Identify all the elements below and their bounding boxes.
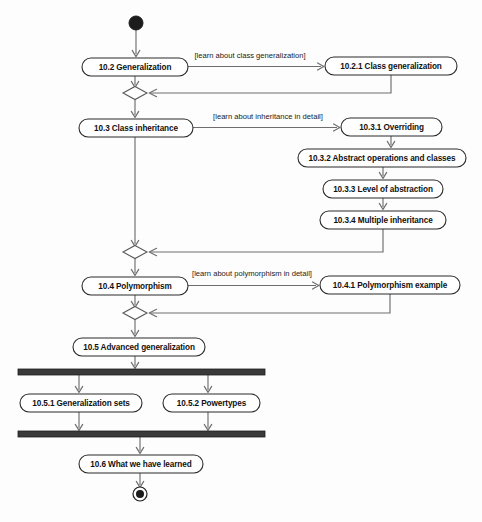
activity-node-generalization[interactable]: 10.2 Generalization (82, 58, 188, 76)
activity-label-advanced-generalization: 10.5 Advanced generalization (83, 343, 195, 352)
edge-generalization-to-decision1 (131, 76, 138, 87)
edge-fork-to-powertypes (204, 375, 211, 392)
flow-edges (75, 30, 394, 487)
edge-initial-to-generalization (132, 30, 140, 57)
activity-label-polymorphism: 10.4 Polymorphism (98, 282, 171, 291)
edge-decision1-to-class-inheritance (131, 100, 138, 118)
activity-node-polymorphism-example[interactable]: 10.4.1 Polymorphism example (320, 276, 460, 294)
edge-polymorphism-to-polymorphism-example (188, 282, 319, 289)
activity-label-level-of-abstraction: 10.3.3 Level of abstraction (333, 185, 433, 194)
fork-bar[interactable] (18, 369, 265, 375)
activity-label-class-generalization: 10.2.1 Class generalization (340, 62, 442, 71)
guard-label-class-generalization: [learn about class generalization] (194, 51, 305, 60)
edge-multiple-inheritance-to-decision2 (149, 229, 383, 256)
guard-label-polymorphism-detail: [learn about polymorphism in detail] (192, 269, 312, 278)
edge-join-to-what-we-have-learned (136, 437, 143, 453)
initial-node[interactable] (129, 16, 143, 30)
activity-node-advanced-generalization[interactable]: 10.5 Advanced generalization (73, 338, 205, 356)
activity-node-multiple-inheritance[interactable]: 10.3.4 Multiple inheritance (320, 211, 446, 229)
activity-node-generalization-sets[interactable]: 10.5.1 Generalization sets (20, 394, 142, 412)
join-bar[interactable] (18, 431, 265, 437)
activity-node-abstract-operations[interactable]: 10.3.2 Abstract operations and classes (298, 149, 466, 167)
activity-label-overriding: 10.3.1 Overriding (359, 123, 424, 132)
guard-label-inheritance-detail: [learn about inheritance in detail] (213, 112, 323, 121)
edge-decision3-to-advanced-generalization (131, 320, 138, 337)
edge-overriding-to-abstract-operations (387, 136, 394, 147)
edge-what-we-have-learned-to-final (136, 473, 143, 487)
activity-label-what-we-have-learned: 10.6 What we have learned (90, 460, 191, 469)
activity-node-overriding[interactable]: 10.3.1 Overriding (341, 118, 442, 136)
edge-class-generalization-to-decision1 (149, 75, 391, 97)
activity-label-polymorphism-example: 10.4.1 Polymorphism example (333, 281, 448, 290)
edge-class-inheritance-to-decision2 (131, 137, 138, 246)
activity-node-polymorphism[interactable]: 10.4 Polymorphism (82, 277, 188, 295)
decision-node-3[interactable] (123, 307, 147, 320)
activity-diagram-canvas: 10.2 Generalization 10.2.1 Class general… (0, 0, 482, 522)
decision-node-1[interactable] (123, 87, 147, 100)
final-node[interactable] (133, 487, 147, 501)
activity-label-generalization-sets: 10.5.1 Generalization sets (32, 399, 130, 408)
edge-generalization-sets-to-join (75, 412, 82, 430)
edge-polymorphism-example-to-decision3 (149, 294, 390, 317)
edge-polymorphism-to-decision3 (131, 295, 138, 307)
uml-activity-diagram: 10.2 Generalization 10.2.1 Class general… (0, 0, 482, 522)
activity-node-class-inheritance[interactable]: 10.3 Class inheritance (79, 119, 193, 137)
activity-node-powertypes[interactable]: 10.5.2 Powertypes (163, 394, 260, 412)
edge-fork-to-generalization-sets (75, 375, 82, 392)
activity-label-powertypes: 10.5.2 Powertypes (177, 399, 247, 408)
activity-node-what-we-have-learned[interactable]: 10.6 What we have learned (79, 455, 203, 473)
edge-class-inheritance-to-overriding (193, 124, 340, 131)
edge-advanced-generalization-to-fork (131, 356, 138, 368)
activity-label-multiple-inheritance: 10.3.4 Multiple inheritance (333, 216, 433, 225)
edge-generalization-to-class-generalization (188, 63, 324, 70)
edge-level-of-abstraction-to-multiple-inheritance (379, 198, 386, 209)
edge-powertypes-to-join (204, 412, 211, 430)
activity-node-class-generalization[interactable]: 10.2.1 Class generalization (325, 57, 457, 75)
edge-decision2-to-polymorphism (131, 259, 138, 276)
activity-label-class-inheritance: 10.3 Class inheritance (94, 124, 178, 133)
edge-abstract-operations-to-level-of-abstraction (379, 167, 386, 178)
activity-label-generalization: 10.2 Generalization (99, 63, 172, 72)
activity-node-level-of-abstraction[interactable]: 10.3.3 Level of abstraction (323, 180, 443, 198)
activity-label-abstract-operations: 10.3.2 Abstract operations and classes (309, 154, 457, 163)
decision-node-2[interactable] (123, 246, 147, 259)
